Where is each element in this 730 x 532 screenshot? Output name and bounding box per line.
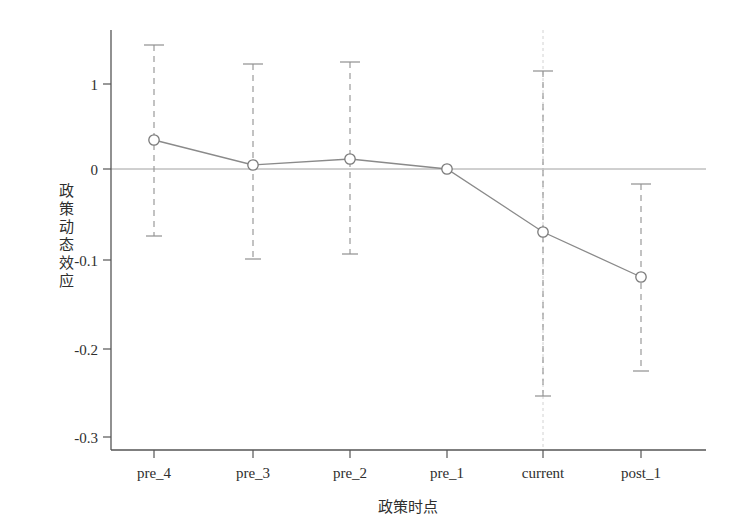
y-axis-title-char-3: 态 — [59, 236, 74, 253]
y-axis-title-char-5: 应 — [59, 272, 74, 289]
y-tick-label-1: 0 — [91, 162, 99, 178]
data-point-pre-1 — [442, 164, 452, 174]
x-tick-label-post-1: post_1 — [621, 465, 661, 481]
y-axis-title: 政 策 动 态 效 应 — [59, 182, 74, 289]
data-point-pre-3 — [248, 160, 258, 170]
x-tick-label-pre-3: pre_3 — [236, 465, 270, 481]
x-tick-label-current: current — [522, 465, 565, 481]
event-study-chart: 1 0 -0.1 -0.2 -0.3 pre_4 pre_3 pre_2 pre… — [0, 0, 730, 532]
y-tick-label-2: -0.1 — [74, 253, 98, 269]
data-point-pre-4 — [149, 135, 159, 145]
y-tick-label-0: 1 — [91, 77, 99, 93]
data-point-current — [538, 227, 548, 237]
x-tick-label-pre-1: pre_1 — [430, 465, 464, 481]
x-axis-title: 政策时点 — [378, 498, 438, 515]
y-axis-title-char-2: 动 — [59, 218, 74, 235]
data-point-pre-2 — [345, 154, 355, 164]
y-tick-label-4: -0.3 — [74, 430, 98, 446]
y-axis-title-char-0: 政 — [59, 182, 74, 199]
y-axis-title-char-4: 效 — [59, 254, 74, 271]
y-axis-title-char-1: 策 — [59, 200, 74, 217]
chart-svg: 1 0 -0.1 -0.2 -0.3 pre_4 pre_3 pre_2 pre… — [0, 0, 730, 532]
x-tick-label-pre-4: pre_4 — [137, 465, 172, 481]
x-tick-label-pre-2: pre_2 — [333, 465, 367, 481]
data-point-post-1 — [636, 272, 646, 282]
chart-background — [0, 0, 730, 532]
y-tick-label-3: -0.2 — [74, 342, 98, 358]
